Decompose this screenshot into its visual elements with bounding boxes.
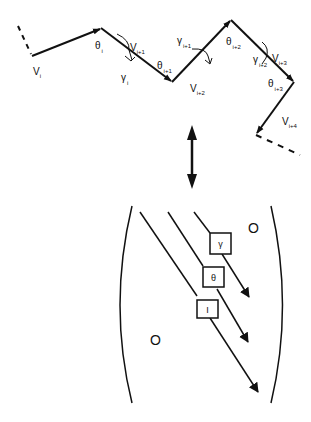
label-gamma-i1: γi+1: [177, 35, 192, 49]
box-label-theta: θ: [211, 273, 216, 283]
label-gamma-i2: γi+2: [253, 54, 268, 68]
chain-end-dashed-line: [256, 135, 300, 155]
equivalence-double-arrow-icon: [187, 125, 197, 189]
vector-v-i2: [172, 21, 230, 82]
label-theta-i3: θi+3: [268, 78, 283, 92]
diagonal-gamma-upper: [194, 212, 210, 233]
polymer-chain: Vi Vi+1 Vi+2 Vi+3 Vi+4 θi θi+1 θi+2 θi+3…: [18, 20, 300, 155]
vector-v-i3: [231, 20, 293, 81]
diagonal-i-upper: [140, 212, 197, 296]
diagram-canvas: Vi Vi+1 Vi+2 Vi+3 Vi+4 θi θi+1 θi+2 θi+3…: [0, 0, 311, 422]
label-v-i: Vi: [33, 66, 41, 79]
matrix-left-bracket: [120, 206, 132, 403]
diagonal-i-lower: [210, 318, 258, 392]
chain-start-dashed-line: [18, 26, 31, 54]
diagonal-gamma-lower: [222, 254, 249, 297]
torsion-arrowhead-icon-i: [125, 56, 135, 61]
label-v-i1: Vi+1: [130, 42, 146, 55]
upper-zero-label: O: [248, 220, 259, 236]
diagonal-theta-upper: [168, 212, 203, 266]
label-v-i2: Vi+2: [190, 83, 206, 96]
diagonal-theta-lower: [217, 289, 248, 342]
banded-matrix: I θ γ O O: [120, 206, 283, 403]
label-v-i4: Vi+4: [282, 116, 298, 129]
label-theta-i: θi: [95, 40, 103, 54]
label-theta-i2: θi+2: [226, 36, 241, 50]
box-label-gamma: γ: [218, 239, 223, 249]
box-label-i: I: [206, 305, 209, 315]
label-gamma-i: γi: [121, 72, 128, 86]
lower-zero-label: O: [150, 332, 161, 348]
matrix-right-bracket: [271, 206, 283, 403]
vector-v-i: [32, 29, 100, 56]
label-v-i3: Vi+3: [272, 53, 288, 66]
